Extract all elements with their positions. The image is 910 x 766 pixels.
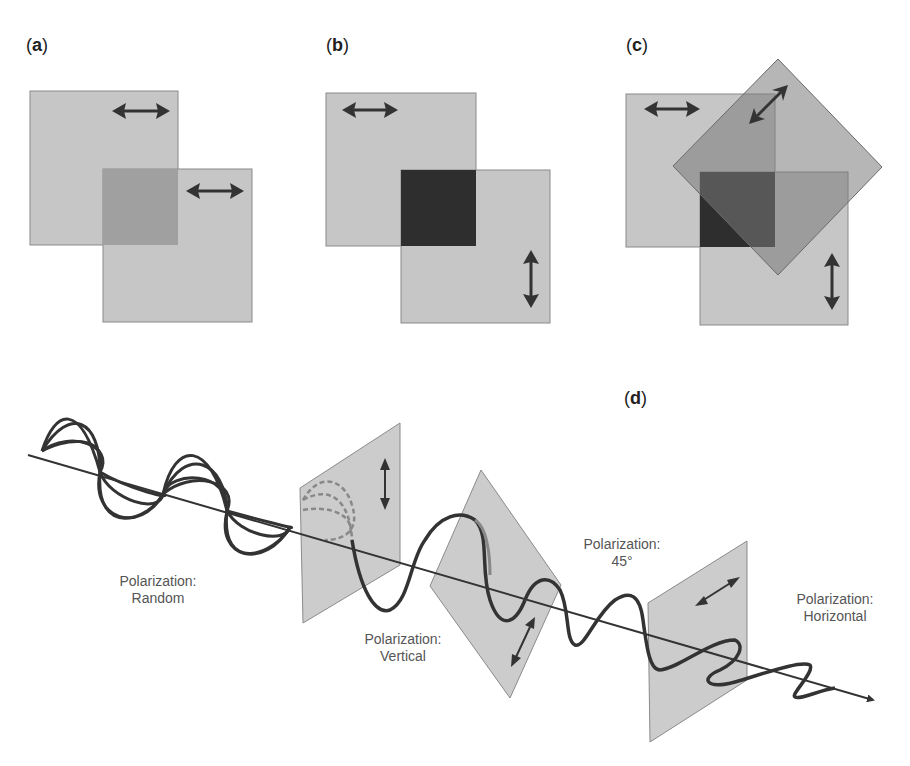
caption-vertical: Polarization: Vertical xyxy=(343,631,463,665)
caption-line: Horizontal xyxy=(775,608,895,625)
random-polarization-wave xyxy=(42,419,292,554)
caption-line: Polarization: xyxy=(343,631,463,648)
overlap-region xyxy=(103,169,178,245)
panel-b xyxy=(326,93,550,323)
overlap-region-dark xyxy=(401,170,476,246)
caption-line: Polarization: xyxy=(562,536,682,553)
caption-horizontal: Polarization: Horizontal xyxy=(775,591,895,625)
panel-c xyxy=(626,59,882,325)
caption-line: 45° xyxy=(562,553,682,570)
caption-line: Polarization: xyxy=(98,573,218,590)
panel-a xyxy=(30,91,252,322)
caption-45-degree: Polarization: 45° xyxy=(562,536,682,570)
caption-line: Vertical xyxy=(343,648,463,665)
caption-line: Polarization: xyxy=(775,591,895,608)
caption-line: Random xyxy=(98,590,218,607)
caption-random: Polarization: Random xyxy=(98,573,218,607)
